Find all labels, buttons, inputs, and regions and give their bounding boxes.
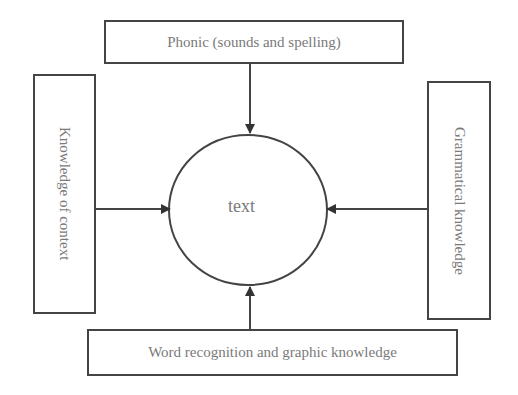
node-grammatical-knowledge: Grammatical knowledge: [427, 81, 491, 320]
center-label: text: [228, 196, 255, 217]
node-phonic: Phonic (sounds and spelling): [104, 20, 404, 64]
node-word-recognition-label: Word recognition and graphic knowledge: [148, 344, 397, 361]
node-grammatical-knowledge-label: Grammatical knowledge: [451, 127, 468, 275]
node-knowledge-of-context-label: Knowledge of context: [56, 127, 73, 260]
node-knowledge-of-context: Knowledge of context: [33, 74, 96, 314]
node-word-recognition: Word recognition and graphic knowledge: [87, 329, 458, 376]
node-phonic-label: Phonic (sounds and spelling): [167, 34, 341, 51]
